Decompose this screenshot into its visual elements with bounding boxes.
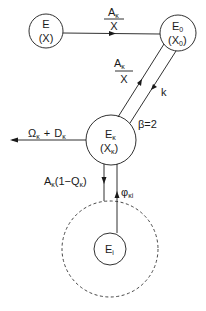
node-Ek: Eκ (Xκ) [86,115,136,165]
arrow-down-icon [102,177,107,184]
one-minus-q: (1−Q [55,175,80,187]
edge-Ei-to-Ek: φκi [115,164,134,233]
node-E0-name-group: E0 [172,20,183,33]
node-E-content: (X) [39,32,54,44]
edge-Ek-to-E0-numerator-sub: κ [121,63,125,70]
node-E0: E0 (X0) [160,15,196,51]
node-Ek-name: E [105,128,112,140]
node-Ek-name-group: Eκ [105,128,116,141]
edge-Ek-to-region-label-group: Aκ(1−Qκ) [44,175,87,188]
node-E0-name: E [172,20,179,32]
edge-Ek-out-label-group: Ωκ+Dκ [28,127,66,140]
edge-E-to-E0-numerator-sub: κ [115,12,119,19]
node-Ei-name: E [105,243,112,255]
edge-Ek-out: Ωκ+Dκ [10,127,86,143]
edge-Ek-to-E0: Aκ X [114,44,164,117]
phi-sub: κi [128,192,134,199]
d-sub: κ [62,133,66,140]
plus-sign: + [44,127,50,139]
arrow-up-icon [115,191,120,198]
close-paren: ) [83,175,87,187]
omega-sub: κ [36,133,40,140]
edge-E-to-E0-denominator: X [110,20,118,32]
node-E0-content: (X [168,34,180,46]
node-Ei-name-sub: i [112,249,114,256]
compartment-diagram: E (X) E0 (X0) Eκ (Xκ) Ei Aκ [0,0,206,311]
node-Ek-content: (X [100,142,112,154]
node-E0-content-close: ) [183,34,187,46]
node-E-name: E [42,18,49,30]
node-Ek-name-sub: κ [112,134,116,141]
beta-label: β=2 [138,118,157,130]
arrow-left-icon [10,138,18,143]
node-E0-name-sub: 0 [179,26,183,33]
omega-label: Ω [28,127,36,139]
node-Ek-content-close: ) [115,142,119,154]
d-label: D [54,127,62,139]
edge-E-to-E0: Aκ X [63,6,160,36]
edge-E0-to-Ek-label: k [161,86,167,98]
node-Ek-circle [86,115,136,165]
node-Ei-name-group: Ei [105,243,114,256]
edge-Ek-to-E0-denominator: X [120,73,128,85]
node-E0-content-group: (X0) [168,34,187,47]
edge-Ei-to-Ek-label-group: φκi [121,186,134,199]
arrow-down-icon [151,84,157,90]
node-Ei: Ei [94,233,126,265]
phi-label: φ [121,186,128,198]
node-Ek-content-group: (Xκ) [100,142,118,155]
node-E: E (X) [29,14,63,48]
edge-Ek-to-region: Aκ(1−Qκ) [44,164,107,201]
edge-Ek-to-E0-numerator-group: Aκ [114,57,125,70]
edge-E-to-E0-numerator-group: Aκ [108,6,119,19]
